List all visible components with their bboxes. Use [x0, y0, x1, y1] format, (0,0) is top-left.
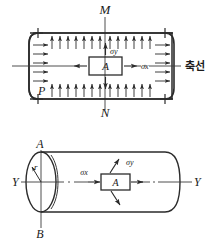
- stress-element-figure: M N: [0, 0, 211, 242]
- right-pressure-arrows: [155, 45, 170, 81]
- top-pressure-arrows: [52, 36, 150, 49]
- label-P: P: [37, 84, 46, 98]
- element-A-label-bottom: A: [111, 177, 119, 188]
- label-axis-line-korean: 축선: [185, 59, 205, 73]
- top-diagram-group: M N: [12, 2, 205, 120]
- label-B-bottom-section: B: [36, 227, 44, 241]
- label-Y-right: Y: [194, 175, 202, 189]
- label-sigma-x-bottom: σx: [80, 168, 88, 177]
- figure-root: M N: [0, 0, 211, 242]
- label-Y-left: Y: [12, 175, 20, 189]
- left-pressure-arrows: [33, 45, 48, 81]
- label-A-top-section: A: [35, 137, 44, 151]
- label-M: M: [99, 2, 112, 17]
- label-N: N: [100, 105, 111, 120]
- label-sigma-y-top: σy: [110, 47, 118, 56]
- bottom-diagram-group: A B r Y Y: [12, 137, 202, 241]
- label-radius-r: r: [34, 162, 38, 172]
- bottom-pressure-arrows: [52, 84, 150, 97]
- label-sigma-x-top: σx: [141, 62, 149, 71]
- element-A-label-top: A: [101, 60, 109, 72]
- label-sigma-y-bottom: σy: [126, 158, 134, 167]
